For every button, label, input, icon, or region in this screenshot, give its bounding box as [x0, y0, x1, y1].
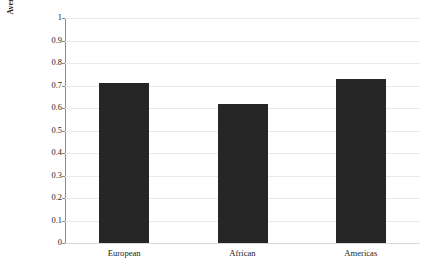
bar-americas[interactable]	[336, 79, 386, 243]
gridline	[65, 243, 420, 244]
y-axis-tick-label: 0.1	[30, 217, 62, 225]
x-axis-tick-label-african: African	[183, 248, 301, 259]
y-axis-tick-label: 0.6	[30, 104, 62, 112]
x-axis-tick-label-european: European	[65, 248, 183, 259]
plot-area	[65, 18, 420, 243]
y-axis-tick-label: 0.4	[30, 149, 62, 157]
y-axis-tick-label: 0.2	[30, 194, 62, 202]
bar-chart-figure: Average level of formal independence (cu…	[0, 0, 429, 272]
y-axis-tick-labels: 10.90.80.70.60.50.40.30.20.10	[30, 0, 62, 272]
bar-african[interactable]	[218, 104, 268, 244]
x-axis-tick-label-americas: Americas	[302, 248, 420, 259]
y-axis-tick-label: 0.3	[30, 172, 62, 180]
y-axis-tick-mark	[62, 243, 65, 244]
y-axis-tick-label: 0.7	[30, 82, 62, 90]
y-axis-title: Average level of formal independence (cu…	[5, 0, 27, 50]
y-axis-title-line-1: Average level of formal independence	[6, 0, 16, 14]
y-axis-tick-label: 0	[30, 239, 62, 247]
bar-european[interactable]	[99, 83, 149, 243]
y-axis-tick-label: 1	[30, 14, 62, 22]
y-axis-tick-label: 0.5	[30, 127, 62, 135]
x-axis-tick-labels: EuropeanAfricanAmericas	[65, 248, 420, 266]
y-axis-tick-label: 0.8	[30, 59, 62, 67]
y-axis-tick-label: 0.9	[30, 37, 62, 45]
bars-layer	[65, 18, 420, 243]
